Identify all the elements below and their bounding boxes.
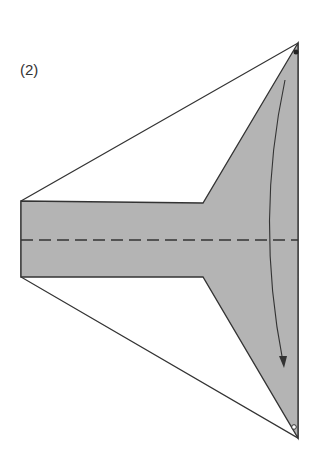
circle-marker-icon: [292, 425, 297, 430]
dot-marker-icon: [294, 50, 299, 55]
origami-diagram: [0, 0, 318, 467]
